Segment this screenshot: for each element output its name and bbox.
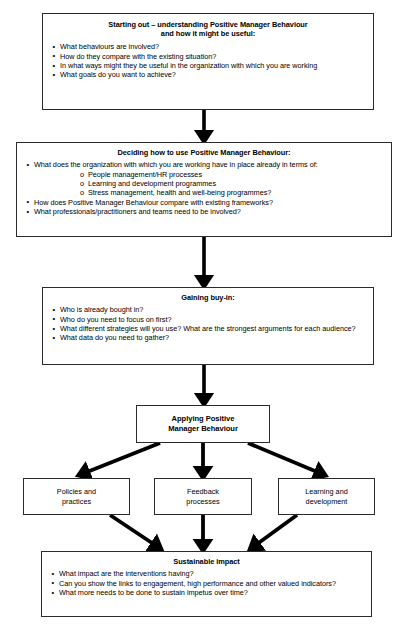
- node-policies-label-line1: Policies and: [57, 487, 96, 496]
- arrow-policies-to-sustainable: [110, 515, 158, 547]
- node-learning-and-development: Learning and development: [278, 478, 375, 515]
- node-applying-positive-manager-behaviour: Applying Positive Manager Behaviour: [136, 405, 270, 443]
- list-item: In what ways might they be useful in the…: [52, 61, 364, 70]
- list-item: What data do you need to gather?: [52, 333, 364, 342]
- node-starting-out: Starting out – understanding Positive Ma…: [42, 13, 374, 110]
- node-starting-out-bullets: What behaviours are involved? How do the…: [52, 42, 364, 79]
- sub-list-item: Learning and development programmes: [26, 179, 382, 188]
- list-item: What professionals/practitioners and tea…: [26, 207, 382, 216]
- node-feedback-label: Feedback processes: [186, 487, 219, 507]
- arrow-learning-to-sustainable: [253, 515, 297, 547]
- flowchart-diagram: Starting out – understanding Positive Ma…: [0, 0, 407, 624]
- node-deciding-heading: Deciding how to use Positive Manager Beh…: [26, 148, 382, 157]
- list-item: What more needs to be done to sustain im…: [51, 588, 362, 597]
- list-item: What goals do you want to achieve?: [52, 70, 364, 79]
- node-buy-in-heading: Gaining buy-in:: [52, 293, 364, 302]
- node-deciding-sub-bullets: People management/HR processes Learning …: [26, 170, 382, 198]
- list-item: Can you show the links to engagement, hi…: [51, 579, 362, 588]
- sub-list-item: Stress management, health and well-being…: [26, 188, 382, 197]
- node-policies-label-line2: practices: [62, 497, 91, 506]
- node-applying-heading: Applying Positive Manager Behaviour: [168, 414, 238, 434]
- list-item: Who do you need to focus on first?: [52, 315, 364, 324]
- node-sustainable-heading: Sustainable impact: [51, 557, 362, 566]
- list-item: What different strategies will you use? …: [52, 324, 364, 333]
- node-learning-label: Learning and development: [305, 487, 348, 507]
- node-deciding-bullets-bottom: How does Positive Manager Behaviour comp…: [26, 198, 382, 217]
- node-sustainable-bullets: What impact are the interventions having…: [51, 569, 362, 597]
- node-starting-out-heading: Starting out – understanding Positive Ma…: [52, 20, 364, 39]
- node-deciding: Deciding how to use Positive Manager Beh…: [16, 142, 392, 237]
- node-deciding-bullets-top: What does the organization with which yo…: [26, 160, 382, 169]
- node-starting-out-heading-line2: and how it might be useful:: [161, 29, 255, 38]
- arrow-applying-to-learning: [248, 443, 322, 474]
- node-gaining-buy-in: Gaining buy-in: Who is already bought in…: [42, 287, 374, 365]
- list-item: What does the organization with which yo…: [26, 160, 382, 169]
- node-learning-label-line1: Learning and: [305, 487, 348, 496]
- list-item: What behaviours are involved?: [52, 42, 364, 51]
- node-feedback-processes: Feedback processes: [154, 478, 252, 515]
- list-item: Who is already bought in?: [52, 305, 364, 314]
- node-policies-label: Policies and practices: [57, 487, 96, 507]
- node-sustainable-impact: Sustainable impact What impact are the i…: [41, 551, 372, 617]
- list-item: What impact are the interventions having…: [51, 569, 362, 578]
- node-policies-and-practices: Policies and practices: [23, 478, 130, 515]
- node-feedback-label-line2: processes: [186, 497, 219, 506]
- node-applying-heading-line1: Applying Positive: [172, 414, 235, 423]
- node-learning-label-line2: development: [306, 497, 348, 506]
- node-buy-in-bullets: Who is already bought in? Who do you nee…: [52, 305, 364, 342]
- list-item: How does Positive Manager Behaviour comp…: [26, 198, 382, 207]
- arrow-applying-to-policies: [82, 443, 160, 474]
- node-starting-out-heading-line1: Starting out – understanding Positive Ma…: [108, 20, 307, 29]
- node-applying-heading-line2: Manager Behaviour: [168, 424, 238, 433]
- sub-list-item: People management/HR processes: [26, 170, 382, 179]
- list-item: How do they compare with the existing si…: [52, 52, 364, 61]
- node-feedback-label-line1: Feedback: [187, 487, 219, 496]
